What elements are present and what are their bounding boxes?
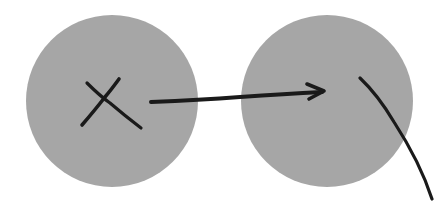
right-circle (241, 15, 413, 187)
diagram-canvas (0, 0, 446, 201)
